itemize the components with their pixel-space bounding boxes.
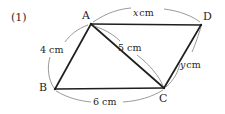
vertex-dot-d — [200, 24, 202, 26]
arc-length-ad-right — [164, 9, 200, 22]
measure-label-ab: 4 cm — [40, 45, 63, 55]
measure-label-cd: y cm — [180, 60, 201, 70]
arc-length-cd-lower — [166, 64, 180, 87]
vertex-label-d: D — [203, 11, 212, 22]
vertex-dot-b — [54, 88, 56, 90]
quadrilateral-edges — [55, 24, 201, 89]
measure-label-ac: 5 cm — [118, 43, 141, 53]
vertex-label-b: B — [39, 82, 47, 93]
side-ad — [91, 24, 201, 25]
vertex-dot-a — [90, 23, 92, 25]
arc-length-bc-right — [123, 90, 163, 102]
vertex-dot-c — [163, 87, 165, 89]
side-cd — [164, 25, 201, 88]
measure-label-ad: x cm — [133, 8, 154, 18]
arc-length-ab-bottom — [48, 57, 54, 88]
arc-length-ab-top — [65, 25, 88, 42]
arc-length-ac-lower — [137, 55, 163, 86]
diagonal-ac — [91, 24, 164, 88]
vertex-label-a: A — [82, 10, 90, 21]
vertex-label-c: C — [159, 93, 167, 104]
geometry-figure: (1) A B C D — [0, 0, 225, 114]
side-bc — [55, 88, 164, 89]
measure-label-bc: 6 cm — [93, 97, 116, 107]
arc-length-bc-left — [56, 91, 91, 102]
arc-length-ad-left — [93, 8, 131, 22]
